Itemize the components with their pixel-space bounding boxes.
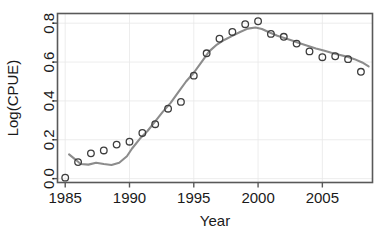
data-point-series — [62, 18, 364, 181]
y-tick-label: 0.4 — [40, 90, 57, 111]
data-point — [216, 35, 223, 42]
data-point — [100, 147, 107, 154]
plot-frame — [58, 14, 373, 183]
data-point — [178, 99, 185, 106]
y-tick-label: 0.2 — [40, 129, 57, 150]
y-axis-title: Log(CPUE) — [4, 60, 21, 137]
y-tick-label: 0.6 — [40, 52, 57, 73]
gridlines — [58, 14, 373, 183]
x-tick-label: 1990 — [113, 189, 146, 206]
data-point — [229, 29, 236, 36]
x-tick-labels: 19851990199520002005 — [49, 189, 340, 206]
smoothed-trend-line — [69, 27, 369, 165]
x-tick-label: 1985 — [49, 189, 82, 206]
x-tick-label: 2000 — [241, 189, 274, 206]
chart-canvas: 19851990199520002005 0.00.20.40.60.8 Yea… — [0, 0, 391, 232]
trend-line-series — [69, 27, 369, 165]
chart-figure: 19851990199520002005 0.00.20.40.60.8 Yea… — [0, 0, 391, 232]
data-point — [88, 150, 95, 157]
data-point — [306, 48, 313, 55]
y-tick-label: 0.0 — [40, 168, 57, 189]
data-point — [242, 21, 249, 28]
data-point — [358, 68, 365, 75]
y-tick-label: 0.8 — [40, 13, 57, 34]
x-tick-label: 2005 — [306, 189, 339, 206]
data-point — [113, 141, 120, 148]
x-axis-title: Year — [200, 212, 230, 229]
x-tick-label: 1995 — [177, 189, 210, 206]
y-tick-labels: 0.00.20.40.60.8 — [40, 13, 57, 189]
